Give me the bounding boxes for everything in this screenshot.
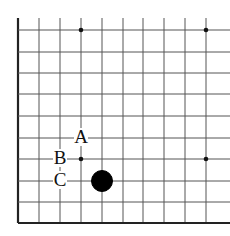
point-label-a: A [74, 128, 88, 146]
point-label-c: C [53, 171, 67, 189]
star-point-icon [79, 157, 84, 162]
point-label-b: B [53, 149, 67, 167]
board-grid [18, 18, 230, 223]
star-point-icon [204, 28, 209, 33]
star-point-icon [79, 28, 84, 33]
stones [92, 171, 113, 192]
star-point-icon [204, 157, 209, 162]
go-board [0, 0, 230, 236]
black-stone [92, 171, 113, 192]
